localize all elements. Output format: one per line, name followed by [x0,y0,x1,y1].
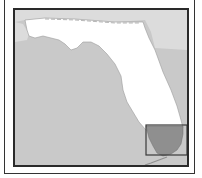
map-frame [13,8,189,167]
florida-locator-map [15,10,187,165]
